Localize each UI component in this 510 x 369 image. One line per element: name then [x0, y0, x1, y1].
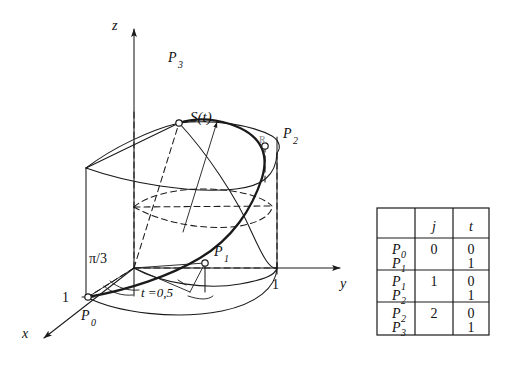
cell-t-start: 0 [468, 242, 475, 257]
cell-point: P [391, 274, 401, 289]
table-row: P 1 P 2 1 0 1 [391, 274, 475, 306]
tick-label-x-one: 1 [62, 290, 69, 305]
curve-label-leader [183, 122, 217, 232]
axis-label-y: y [338, 276, 347, 291]
marker-p3 [176, 120, 182, 126]
label-radius-R: R [259, 134, 266, 145]
label-p2-sub: 2 [293, 135, 298, 146]
table-row: P 2 P 3 2 0 1 [391, 306, 475, 338]
cell-point-sub: 2 [401, 313, 406, 324]
cell-point: P [391, 288, 401, 303]
axis-label-x: x [21, 326, 29, 341]
label-p0-sub: 0 [91, 317, 96, 328]
axis-x [44, 268, 134, 338]
cell-point: P [391, 242, 401, 257]
marker-p0 [85, 294, 91, 300]
figure-root: z y x P 3 P 2 P 1 P 0 S(t) π/3 t =0,5 1 … [0, 0, 510, 369]
label-p3: P [167, 50, 177, 65]
cell-t-start: 0 [468, 274, 475, 289]
cell-point-sub: 1 [401, 263, 406, 274]
cell-j: 1 [431, 274, 438, 289]
axis-label-z: z [111, 18, 118, 33]
cell-t-end: 1 [468, 288, 475, 303]
cell-t-end: 1 [468, 320, 475, 335]
label-p2: P [282, 126, 292, 141]
cylinder-top-rim [86, 122, 279, 168]
cell-point-sub: 1 [401, 281, 406, 292]
cell-point-sub: 2 [401, 295, 406, 306]
cell-t-start: 0 [468, 306, 475, 321]
cell-point: P [391, 320, 401, 335]
tick-label-y-one: 1 [272, 277, 279, 292]
cell-t-end: 1 [468, 256, 475, 271]
cell-point: P [391, 256, 401, 271]
spline-curve-S [88, 119, 265, 297]
label-p3-sub: 3 [177, 59, 183, 70]
cell-point-sub: 3 [400, 327, 406, 338]
surface-slant-edge [86, 123, 179, 168]
table-header-t: t [469, 219, 474, 234]
diagram-labels: z y x P 3 P 2 P 1 P 0 S(t) π/3 t =0,5 1 … [21, 18, 347, 341]
label-t-mid: t =0,5 [141, 285, 173, 300]
marker-p1 [202, 260, 208, 266]
label-p0: P [80, 308, 90, 323]
label-curve-S: S(t) [190, 109, 212, 126]
table-row: P 0 P 1 0 0 1 [391, 242, 475, 274]
diagram-canvas: z y x P 3 P 2 P 1 P 0 S(t) π/3 t =0,5 1 … [0, 0, 510, 369]
label-p1-sub: 1 [224, 253, 229, 264]
cell-j: 0 [431, 242, 438, 257]
cell-point: P [391, 306, 401, 321]
label-angle: π/3 [89, 251, 107, 266]
cylinder-top-rim-back [86, 153, 277, 190]
construction-lines [88, 110, 277, 297]
cell-j: 2 [431, 306, 438, 321]
label-p1: P [213, 244, 223, 259]
table-header-j: j [430, 219, 436, 234]
parameter-table: j t P 0 P 1 0 0 1 P 1 P 2 1 0 1 P [377, 208, 489, 338]
cell-point-sub: 0 [401, 249, 406, 260]
